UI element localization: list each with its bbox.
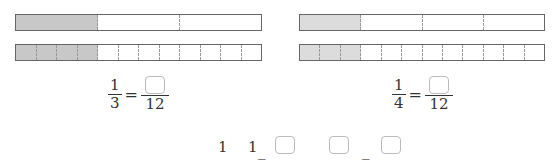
denominator: 4 [392,95,406,112]
right-bottom-bar [299,44,545,61]
answer-box-numerator[interactable] [429,76,449,94]
segment [382,45,402,60]
answer-box-1[interactable] [275,136,295,154]
left-top-bar [15,14,262,31]
fraction-one-fourth: 1 4 [392,77,406,112]
shaded-segment [300,15,361,30]
segment [361,45,381,60]
numerator: 1 [392,77,406,94]
segment [443,45,463,60]
numerator-2: 1 [248,138,258,156]
segment [242,45,262,60]
fraction-answer: 12 [425,76,453,113]
segment [525,45,544,60]
segment [98,15,180,30]
shaded-segment [16,45,37,60]
shaded-segment [78,45,99,60]
segment [423,45,443,60]
equals-sign: = [409,85,422,104]
fraction-bar: _ [258,142,266,160]
answer-box-numerator[interactable] [145,76,165,94]
shaded-segment [16,15,98,30]
right-top-bar [299,14,545,31]
segment [201,45,222,60]
fraction-bar: _ [362,142,370,160]
answer-box-3[interactable] [381,136,401,154]
denominator: 3 [108,95,122,112]
segment [484,45,504,60]
fraction-one-third: 1 3 [108,77,122,112]
left-equation: 1 3 = 12 [108,76,169,113]
shaded-segment [37,45,58,60]
shaded-segment [320,45,340,60]
denominator: 12 [143,96,166,113]
segment [463,45,483,60]
segment [160,45,181,60]
segment [139,45,160,60]
segment [504,45,524,60]
right-equation: 1 4 = 12 [392,76,453,113]
segment [402,45,422,60]
segment [180,45,201,60]
fraction-answer: 12 [141,76,169,113]
segment [180,15,261,30]
segment [361,15,422,30]
segment [119,45,140,60]
left-bottom-bar [15,44,262,61]
segment [484,15,544,30]
shaded-segment [300,45,320,60]
denominator: 12 [427,96,450,113]
segment [98,45,119,60]
numerator: 1 [108,77,122,94]
comparison-row: 1 1 _ _ [0,138,557,160]
equals-sign: = [125,85,138,104]
segment [221,45,242,60]
answer-box-2[interactable] [329,136,349,154]
segment [423,15,484,30]
shaded-segment [341,45,361,60]
shaded-segment [57,45,78,60]
numerator-1: 1 [218,138,228,156]
